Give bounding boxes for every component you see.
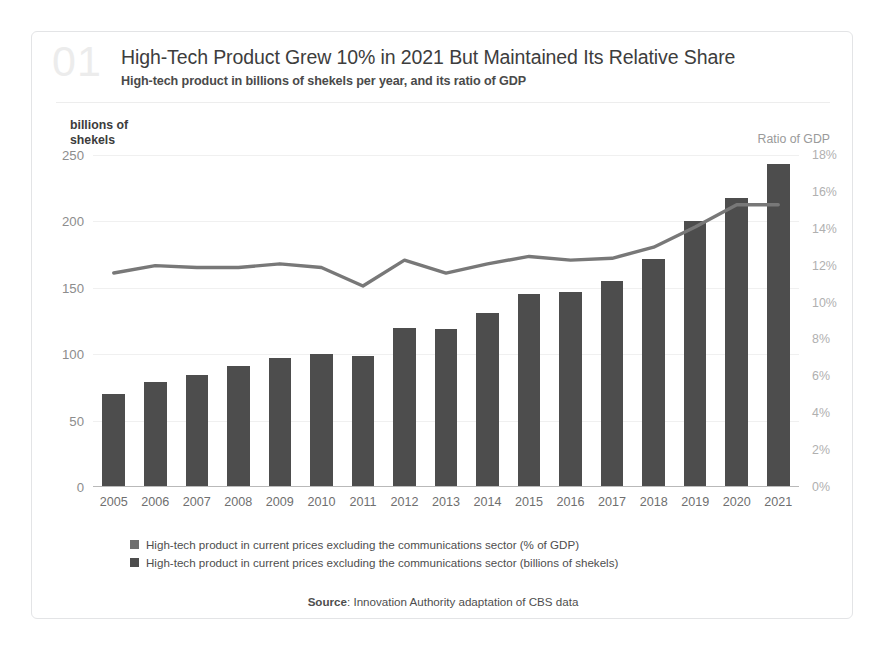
- chart-plot-area: 050100150200250 0%2%4%6%8%10%12%14%16%18…: [93, 155, 799, 487]
- x-axis-tick-label: 2014: [474, 495, 502, 509]
- legend-swatch-icon: [130, 540, 139, 549]
- x-axis-tick-label: 2015: [515, 495, 543, 509]
- right-axis-tick-label: 4%: [812, 406, 830, 420]
- right-axis-tick-label: 0%: [812, 480, 830, 494]
- source-label: Source: [308, 595, 347, 608]
- right-axis-tick-label: 8%: [812, 332, 830, 346]
- x-axis-tick-label: 2021: [764, 495, 792, 509]
- left-axis-tick-label: 150: [62, 280, 84, 295]
- page-title: High-Tech Product Grew 10% in 2021 But M…: [121, 45, 821, 69]
- header-divider: [56, 102, 830, 103]
- left-axis-caption: billions of shekels: [70, 118, 160, 148]
- x-axis-tick-label: 2011: [349, 495, 376, 509]
- right-axis-tick-label: 16%: [812, 185, 837, 199]
- right-axis-tick-label: 2%: [812, 443, 830, 457]
- chart-legend: High-tech product in current prices excl…: [32, 538, 854, 574]
- line-series-svg: [93, 155, 799, 487]
- right-axis-tick-label: 6%: [812, 369, 830, 383]
- x-axis-tick-label: 2006: [141, 495, 169, 509]
- x-axis-tick-label: 2020: [723, 495, 751, 509]
- legend-swatch-icon: [130, 558, 139, 567]
- legend-item-1[interactable]: High-tech product in current prices excl…: [32, 556, 854, 569]
- x-axis-tick-label: 2007: [183, 495, 211, 509]
- x-axis-line: [93, 486, 799, 487]
- legend-label: High-tech product in current prices excl…: [146, 556, 618, 569]
- x-axis-tick-label: 2018: [640, 495, 668, 509]
- card-number-badge: 01: [52, 40, 102, 83]
- x-axis-tick-label: 2012: [390, 495, 418, 509]
- legend-label: High-tech product in current prices excl…: [146, 538, 579, 551]
- x-axis-tick-label: 2008: [224, 495, 252, 509]
- x-axis-tick-label: 2005: [100, 495, 128, 509]
- card-header: 01 High-Tech Product Grew 10% in 2021 Bu…: [32, 32, 854, 104]
- chart-card: 01 High-Tech Product Grew 10% in 2021 Bu…: [31, 31, 853, 619]
- source-note: Source: Innovation Authority adaptation …: [32, 595, 854, 608]
- left-axis-tick-label: 100: [62, 347, 84, 362]
- legend-item-0[interactable]: High-tech product in current prices excl…: [32, 538, 854, 551]
- x-axis-tick-label: 2019: [681, 495, 709, 509]
- source-value: Innovation Authority adaptation of CBS d…: [353, 595, 578, 608]
- x-axis-tick-label: 2017: [598, 495, 626, 509]
- left-axis-tick-label: 200: [62, 214, 84, 229]
- left-axis-tick-label: 50: [69, 413, 84, 428]
- right-axis-tick-label: 18%: [812, 148, 837, 162]
- left-axis-tick-label: 0: [77, 480, 84, 495]
- x-axis-tick-label: 2010: [307, 495, 335, 509]
- page-root: 01 High-Tech Product Grew 10% in 2021 Bu…: [0, 0, 886, 660]
- x-axis-tick-label: 2016: [557, 495, 585, 509]
- page-subtitle: High-tech product in billions of shekels…: [121, 74, 821, 88]
- line-series-group: [93, 155, 799, 487]
- x-axis-labels: 2005200620072008200920102011201220132014…: [93, 495, 799, 515]
- title-block: High-Tech Product Grew 10% in 2021 But M…: [121, 45, 821, 88]
- gdp-ratio-line: [114, 205, 778, 286]
- right-axis-tick-label: 14%: [812, 222, 837, 236]
- right-axis-caption: Ratio of GDP: [758, 132, 830, 146]
- right-axis-tick-label: 12%: [812, 259, 837, 273]
- x-axis-tick-label: 2013: [432, 495, 460, 509]
- left-axis-tick-label: 250: [62, 148, 84, 163]
- x-axis-tick-label: 2009: [266, 495, 294, 509]
- right-axis-tick-label: 10%: [812, 296, 837, 310]
